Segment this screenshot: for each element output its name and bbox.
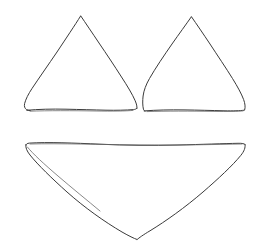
sketch-canvas: Line drawing of three hand-drawn triangl… <box>0 0 260 241</box>
sketch-drawing <box>0 0 260 241</box>
canvas-background <box>0 0 260 241</box>
